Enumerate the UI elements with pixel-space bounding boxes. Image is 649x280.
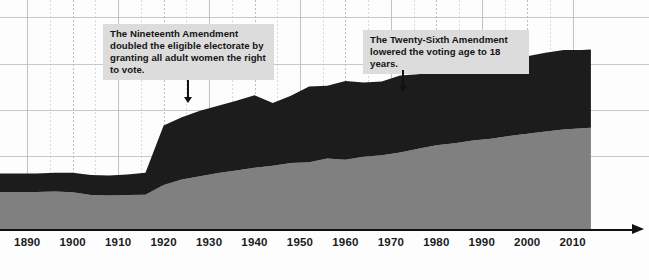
annotation-twenty-sixth-amendment: The Twenty-Sixth Amendment lowered the v…	[363, 30, 529, 74]
x-tick-1940: 1940	[241, 236, 267, 248]
x-tick-1970: 1970	[378, 236, 404, 248]
x-tick-2010: 2010	[560, 236, 586, 248]
x-tick-1950: 1950	[287, 236, 313, 248]
chart-figure: 1890190019101920193019401950196019701980…	[0, 0, 649, 280]
annotation-nineteenth-amendment: The Nineteenth Amendment doubled the eli…	[103, 24, 274, 80]
x-tick-1890: 1890	[14, 236, 40, 248]
x-tick-1900: 1900	[60, 236, 86, 248]
x-tick-1980: 1980	[423, 236, 449, 248]
x-tick-1910: 1910	[105, 236, 131, 248]
x-tick-1920: 1920	[150, 236, 176, 248]
x-axis-line	[0, 229, 634, 231]
x-tick-1990: 1990	[469, 236, 495, 248]
x-axis-arrowhead	[632, 224, 644, 234]
x-tick-1960: 1960	[332, 236, 358, 248]
x-tick-1930: 1930	[196, 236, 222, 248]
plot-area	[0, 0, 649, 229]
stacked-area-series	[0, 0, 649, 229]
x-tick-2000: 2000	[514, 236, 540, 248]
